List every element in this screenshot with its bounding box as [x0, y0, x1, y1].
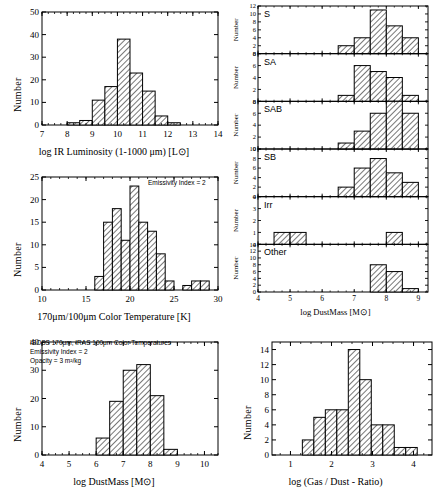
svg-text:7: 7: [40, 129, 45, 139]
svg-text:14: 14: [250, 241, 257, 248]
subpanel-label-sa: SA: [264, 57, 276, 67]
svg-text:30: 30: [30, 365, 40, 375]
svg-text:2: 2: [253, 217, 256, 224]
svg-text:8: 8: [253, 50, 256, 57]
svg-text:6: 6: [253, 110, 257, 117]
histogram-bar: [314, 417, 325, 455]
svg-text:4: 4: [253, 121, 257, 128]
plot-area-p3: 45678910010203040: [0, 330, 228, 494]
svg-text:4: 4: [253, 275, 257, 282]
histogram-bar: [148, 231, 157, 290]
svg-text:7: 7: [121, 459, 126, 469]
histogram-bar: [121, 240, 130, 290]
histogram-bar: [402, 113, 418, 149]
histogram-bar: [95, 276, 104, 290]
svg-text:10: 10: [113, 129, 123, 139]
svg-text:9: 9: [417, 294, 421, 303]
svg-text:5: 5: [35, 262, 40, 272]
svg-text:20: 20: [126, 294, 136, 304]
svg-text:4: 4: [253, 193, 257, 200]
svg-text:8: 8: [253, 155, 256, 162]
svg-text:2: 2: [265, 435, 270, 445]
plot-area-p5: 123402468101214: [228, 330, 443, 494]
svg-text:4: 4: [256, 294, 260, 303]
subpanel-label-irr: Irr: [264, 200, 273, 210]
svg-text:8: 8: [65, 129, 70, 139]
figure-canvas: Number log IR Luminosity (1-1000 μm) [L⊙…: [0, 0, 443, 494]
histogram-bar: [360, 380, 371, 455]
svg-text:30: 30: [214, 294, 224, 304]
svg-text:20: 20: [30, 75, 40, 85]
svg-text:6: 6: [320, 294, 324, 303]
subpanel-label-sb: SB: [264, 152, 276, 162]
svg-text:0: 0: [265, 450, 270, 460]
histogram-bar: [274, 232, 290, 244]
histogram-bar: [302, 440, 313, 455]
svg-text:8: 8: [148, 459, 153, 469]
svg-text:0: 0: [35, 120, 40, 130]
svg-text:6: 6: [253, 268, 257, 275]
svg-text:10: 10: [30, 240, 40, 250]
svg-text:14: 14: [214, 129, 224, 139]
svg-text:6: 6: [94, 459, 99, 469]
histogram-bar: [137, 365, 151, 455]
svg-text:10: 10: [250, 145, 257, 152]
svg-text:40: 40: [30, 30, 40, 40]
histogram-bar: [386, 272, 402, 292]
svg-text:11: 11: [138, 129, 147, 139]
subpanel-label-other: Other: [264, 247, 287, 257]
panel-color-temperature: Number 170μm/100μm Color Temperature [K]…: [0, 165, 228, 330]
svg-text:8: 8: [384, 294, 388, 303]
histogram-bar: [200, 281, 209, 290]
svg-text:8: 8: [253, 18, 256, 25]
histogram-bar: [110, 401, 124, 455]
histogram-bar: [386, 101, 402, 149]
svg-text:13: 13: [188, 129, 198, 139]
svg-text:10: 10: [200, 459, 210, 469]
svg-text:2: 2: [253, 281, 256, 288]
svg-text:0: 0: [35, 285, 40, 295]
histogram-bar: [130, 73, 143, 125]
svg-text:9: 9: [175, 459, 180, 469]
svg-text:1: 1: [253, 229, 256, 236]
svg-text:1: 1: [288, 459, 293, 469]
histogram-bar: [402, 38, 418, 54]
svg-text:2: 2: [253, 86, 256, 93]
svg-text:4: 4: [253, 74, 257, 81]
histogram-bar: [92, 100, 105, 125]
svg-text:20: 20: [30, 195, 40, 205]
svg-text:6: 6: [253, 164, 257, 171]
svg-text:3: 3: [370, 459, 375, 469]
panel-ir-luminosity: Number log IR Luminosity (1-1000 μm) [L⊙…: [0, 0, 228, 165]
histogram-bar: [406, 447, 417, 455]
svg-text:4: 4: [253, 174, 257, 181]
histogram-bar: [386, 26, 402, 54]
histogram-bar: [105, 87, 118, 125]
histogram-bar: [150, 396, 164, 455]
svg-text:5: 5: [288, 294, 292, 303]
histogram-bar: [165, 281, 174, 290]
plot-area-p2: 10152025300510152025: [0, 165, 228, 330]
subpanel-label-sab: SAB: [264, 104, 282, 114]
svg-text:10: 10: [260, 375, 270, 385]
histogram-bar: [156, 254, 165, 290]
svg-text:15: 15: [82, 294, 92, 304]
histogram-bar: [370, 113, 386, 149]
svg-text:2: 2: [253, 42, 256, 49]
histogram-bar: [354, 168, 370, 197]
histogram-bar: [371, 425, 382, 455]
histogram-bar: [348, 350, 359, 455]
svg-text:2: 2: [329, 459, 334, 469]
histogram-bar: [370, 10, 386, 54]
histogram-bar: [354, 66, 370, 102]
svg-text:4: 4: [265, 420, 270, 430]
histogram-bar: [354, 38, 370, 54]
svg-text:10: 10: [38, 294, 48, 304]
histogram-bar: [383, 425, 394, 455]
histogram-bar: [96, 438, 110, 455]
axis-label-y-subpanel: Number: [232, 65, 240, 89]
histogram-bar: [370, 159, 386, 197]
axis-label-y-subpanel: Number: [232, 113, 240, 137]
svg-text:30: 30: [30, 52, 40, 62]
svg-text:8: 8: [253, 261, 256, 268]
